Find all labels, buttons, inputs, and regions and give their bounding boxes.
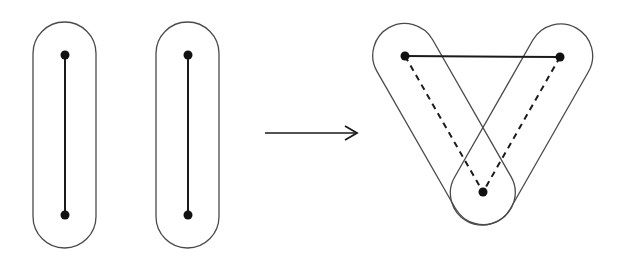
transform-arrow <box>265 126 357 140</box>
vertex-top-left <box>401 52 410 61</box>
solid-edge-top <box>405 56 560 57</box>
vertex-top-right <box>556 53 565 62</box>
capsule-2-bottom-vertex <box>184 211 193 220</box>
left-group <box>33 22 219 248</box>
dashed-edge-left <box>405 56 483 192</box>
capsule-2-top-vertex <box>184 51 193 60</box>
vertex-bottom <box>479 188 488 197</box>
capsule-1-bottom-vertex <box>61 211 70 220</box>
dashed-edge-right <box>483 57 560 192</box>
capsule-1-top-vertex <box>61 51 70 60</box>
right-group <box>361 12 604 237</box>
diagram-canvas <box>0 0 619 257</box>
